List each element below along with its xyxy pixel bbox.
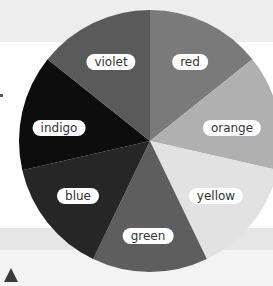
label-green: green xyxy=(123,228,174,244)
label-blue: blue xyxy=(57,188,99,204)
label-yellow: yellow xyxy=(189,188,243,204)
label-orange: orange xyxy=(203,120,261,136)
label-indigo: indigo xyxy=(33,120,86,136)
label-violet: violet xyxy=(86,54,135,70)
label-red: red xyxy=(172,54,208,70)
up-triangle-icon xyxy=(4,268,18,282)
